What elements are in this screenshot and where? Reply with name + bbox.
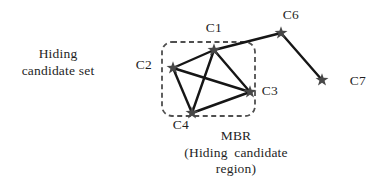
node-label-C1: C1 (206, 20, 222, 36)
hiding-candidate-diagram: Hiding candidate set MBR (Hiding candida… (0, 0, 381, 193)
node-label-C7: C7 (350, 73, 366, 89)
mbr-caption: MBR (Hiding candidate region) (146, 128, 326, 178)
node-label-C6: C6 (283, 7, 299, 23)
node-label-C3: C3 (262, 83, 278, 99)
hiding-candidate-set-label: Hiding candidate set (6, 45, 110, 79)
node-star-C2-icon (167, 61, 180, 73)
mbr-caption-line1: (Hiding candidate (146, 145, 326, 162)
mbr-caption-line2: region) (146, 161, 326, 178)
hiding-candidate-set-line2: candidate set (6, 62, 110, 79)
node-label-C2: C2 (136, 57, 152, 73)
hiding-candidate-set-line1: Hiding (6, 45, 110, 62)
edge-C2-C4 (173, 68, 192, 113)
edge-C6-C7 (281, 33, 322, 80)
edge-C3-C4 (192, 92, 250, 113)
node-label-C4: C4 (173, 117, 189, 133)
